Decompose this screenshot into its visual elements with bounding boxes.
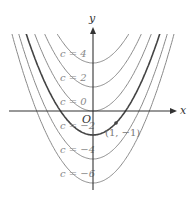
curve-label: c = 2 [60, 72, 87, 83]
curve-label: c = 4 [60, 48, 87, 59]
x-axis-arrow-icon [170, 108, 177, 114]
curve-label: c = −4 [60, 144, 95, 155]
x-axis-label: x [180, 104, 187, 117]
y-axis-label: y [88, 12, 96, 25]
curve-label: c = 0 [60, 96, 87, 107]
point-marker [114, 121, 118, 125]
origin-label: O [82, 113, 91, 126]
point-label: (1, −1) [105, 127, 140, 138]
curve-label: c = −6 [60, 168, 96, 179]
y-axis-arrow-icon [90, 27, 96, 34]
level-curves-diagram: c = 4c = 2c = 0c = −2c = −4c = −6 x y O … [0, 0, 193, 203]
